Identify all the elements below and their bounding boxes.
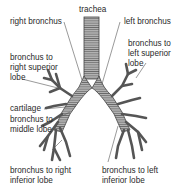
label-bronchus-right-inferior-line1: bronchus to right <box>10 166 71 176</box>
label-bronchus-right-superior-line2: right superior <box>10 63 58 73</box>
label-bronchus-right-superior-line3: lobe <box>10 73 25 83</box>
label-right-bronchus: right bronchus <box>10 17 62 27</box>
label-trachea: trachea <box>79 5 106 15</box>
label-bronchus-left-superior-line1: bronchus to <box>128 39 171 49</box>
label-bronchus-left-superior-line2: left superior <box>128 49 171 59</box>
label-bronchus-left-inferior-line1: bronchus to left <box>102 166 158 176</box>
label-bronchus-right-inferior-line2: inferior lobe <box>10 176 53 186</box>
bronchial-tree-illustration <box>0 0 179 188</box>
label-bronchus-right-superior-line1: bronchus to <box>10 53 53 63</box>
label-bronchus-middle-line2: middle lobe <box>10 125 52 135</box>
label-bronchus-left-superior-line3: lobe <box>128 59 143 69</box>
label-bronchus-left-inferior-line2: inferior lobe <box>102 176 145 186</box>
label-bronchus-middle-line1: bronchus to <box>10 115 53 125</box>
trachea-shape <box>84 17 99 79</box>
label-cartilage: cartilage <box>10 104 41 114</box>
label-left-bronchus: left bronchus <box>124 17 171 27</box>
